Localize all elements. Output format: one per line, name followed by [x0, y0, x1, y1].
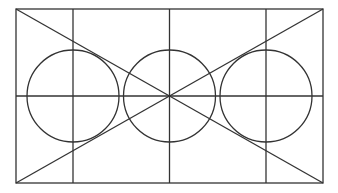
diagram-svg [0, 0, 338, 193]
geometric-diagram [0, 0, 338, 193]
diagram-shapes [16, 9, 323, 183]
